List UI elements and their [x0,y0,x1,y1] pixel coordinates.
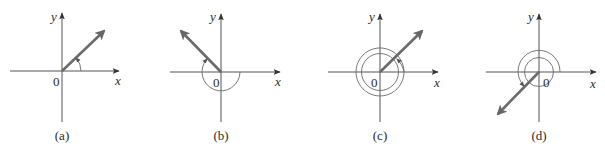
panel-caption: (a) [55,128,69,143]
angle-diagrams-figure: y x 0 (a) y x 0 (b) y x 0 (c) y x 0 (d) [0,0,605,153]
panel-caption: (b) [213,128,228,143]
panel-caption: (c) [373,128,387,143]
panel-c: y x 0 (c) [328,9,440,143]
origin-label: 0 [213,75,220,90]
panel-a: y x 0 (a) [10,9,121,143]
origin-label: 0 [543,75,550,90]
terminal-ray [181,31,221,72]
x-label: x [114,73,121,88]
y-label: y [526,9,534,24]
origin-label: 0 [53,74,60,89]
y-label: y [208,9,216,24]
y-label: y [49,9,57,24]
panel-caption: (d) [531,128,546,143]
terminal-ray [498,72,539,114]
panel-b: y x 0 (b) [170,9,281,143]
terminal-ray [62,31,104,71]
x-label: x [433,75,440,90]
x-label: x [589,76,596,91]
y-label: y [367,9,375,24]
x-label: x [274,74,281,89]
panel-d: y x 0 (d) [486,9,596,143]
terminal-ray [380,31,422,72]
origin-label: 0 [371,75,378,90]
angle-arc [76,58,81,71]
